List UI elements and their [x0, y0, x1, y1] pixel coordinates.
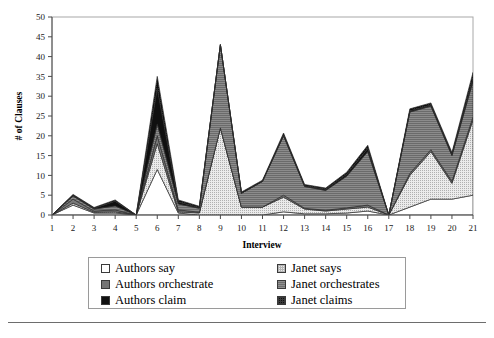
y-tick-label: 20 — [36, 131, 46, 141]
x-tick-label: 13 — [300, 223, 310, 233]
legend-swatch-janet-claims — [277, 296, 286, 305]
legend-swatch-janet-says — [277, 264, 286, 273]
x-tick-label: 10 — [237, 223, 247, 233]
y-tick-label: 5 — [41, 190, 46, 200]
x-tick-label: 17 — [384, 223, 394, 233]
legend-item[interactable]: Authors say — [101, 260, 277, 276]
legend-swatch-authors-orchestrate — [101, 280, 110, 289]
y-tick-label: 25 — [36, 111, 46, 121]
legend-item-label: Authors say — [115, 262, 175, 275]
y-tick-label: 30 — [36, 91, 46, 101]
legend-item-label: Janet orchestrates — [291, 278, 380, 291]
x-tick-label: 21 — [469, 223, 478, 233]
y-axis-ticks: 05101520253035404550 — [36, 12, 52, 220]
y-tick-label: 15 — [36, 151, 46, 161]
legend-item[interactable]: Authors claim — [101, 292, 277, 308]
legend-swatch-janet-orchestrates — [277, 280, 286, 289]
legend-item[interactable]: Janet claims — [277, 292, 419, 308]
y-axis-title: # of Clauses — [14, 91, 24, 140]
x-axis-ticks: 123456789101112131415161718192021 — [50, 215, 478, 233]
legend-item[interactable]: Janet orchestrates — [277, 276, 419, 292]
x-tick-label: 14 — [321, 223, 331, 233]
legend-item-label: Authors orchestrate — [115, 278, 213, 291]
x-tick-label: 4 — [113, 223, 118, 233]
x-tick-label: 16 — [363, 223, 373, 233]
x-tick-label: 12 — [279, 223, 288, 233]
x-tick-label: 6 — [155, 223, 160, 233]
x-tick-label: 1 — [50, 223, 55, 233]
x-tick-label: 5 — [134, 223, 139, 233]
x-tick-label: 15 — [342, 223, 352, 233]
y-tick-label: 40 — [36, 52, 46, 62]
chart-plot-area: 05101520253035404550 1234567891011121314… — [0, 0, 494, 250]
legend-item[interactable]: Authors orchestrate — [101, 276, 277, 292]
legend-swatch-authors-say — [101, 264, 110, 273]
y-tick-label: 0 — [41, 210, 46, 220]
x-tick-label: 3 — [92, 223, 97, 233]
figure-container: 05101520253035404550 1234567891011121314… — [0, 0, 494, 338]
x-tick-label: 9 — [218, 223, 223, 233]
x-tick-label: 20 — [447, 223, 457, 233]
x-tick-label: 2 — [71, 223, 76, 233]
legend-swatch-authors-claim — [101, 296, 110, 305]
chart-legend: Authors sayJanet saysAuthors orchestrate… — [88, 257, 406, 309]
x-tick-label: 11 — [258, 223, 267, 233]
x-tick-label: 7 — [176, 223, 181, 233]
bottom-divider — [8, 322, 486, 323]
x-tick-label: 18 — [405, 223, 415, 233]
x-tick-label: 8 — [197, 223, 202, 233]
legend-item-label: Janet claims — [291, 294, 352, 307]
x-axis-title: Interview — [242, 240, 281, 250]
legend-item-label: Janet says — [291, 262, 341, 275]
y-tick-label: 50 — [36, 12, 46, 22]
stacked-area-chart: 05101520253035404550 1234567891011121314… — [0, 0, 494, 250]
legend-item[interactable]: Janet says — [277, 260, 419, 276]
legend-item-label: Authors claim — [115, 294, 186, 307]
y-tick-label: 45 — [36, 32, 46, 42]
x-tick-label: 19 — [426, 223, 436, 233]
y-tick-label: 10 — [36, 171, 46, 181]
y-tick-label: 35 — [36, 72, 46, 82]
